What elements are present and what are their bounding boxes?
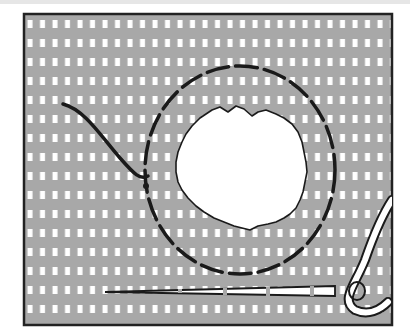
darning-illustration bbox=[0, 0, 410, 336]
